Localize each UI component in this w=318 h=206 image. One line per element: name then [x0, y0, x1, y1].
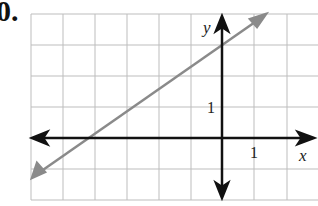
- y-axis-label: y: [201, 18, 211, 37]
- graph-line: [32, 14, 266, 178]
- grid: [31, 14, 318, 200]
- x-axis-label: x: [298, 146, 307, 165]
- x-tick-label: 1: [250, 144, 258, 161]
- coordinate-graph: y x 1 1: [0, 0, 318, 206]
- y-tick-label: 1: [207, 99, 215, 116]
